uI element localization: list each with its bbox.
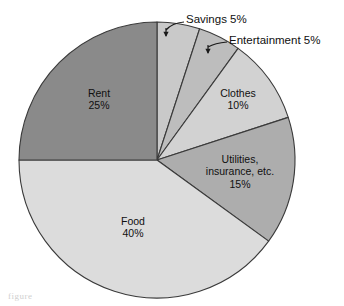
figure-caption-ghost: figure: [8, 291, 33, 301]
slice-label-entertainment: Entertainment 5%: [229, 34, 320, 46]
slice-label-food: Food40%: [121, 215, 145, 240]
pie-chart-figure: Savings 5%Entertainment 5%Clothes10%Util…: [0, 0, 344, 306]
slice-label-rent: Rent25%: [88, 87, 110, 112]
slice-label-savings: Savings 5%: [186, 13, 247, 25]
pie-chart-canvas: Savings 5%Entertainment 5%Clothes10%Util…: [0, 0, 344, 306]
